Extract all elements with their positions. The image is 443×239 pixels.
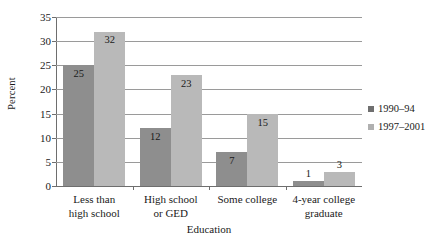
y-axis-tick-mark — [52, 17, 56, 18]
y-axis-tick-mark — [52, 65, 56, 66]
bar-value-label: 1 — [293, 168, 324, 179]
x-axis-category-label-line: graduate — [276, 207, 373, 221]
legend-item[interactable]: 1990–94 — [368, 102, 425, 115]
y-axis-tick-labels: 05101520253035 — [0, 17, 51, 186]
y-axis-tick-label: 35 — [40, 12, 51, 23]
x-axis-title: Education — [0, 223, 418, 235]
legend-swatch-icon — [368, 106, 374, 112]
bar-value-label: 23 — [171, 78, 202, 89]
chart-legend: 1990–94 1997–2001 — [368, 102, 425, 138]
bar-value-label: 32 — [94, 34, 125, 45]
x-axis-category-label: 4-year collegegraduate — [276, 193, 373, 220]
y-axis-tick-mark — [52, 41, 56, 42]
y-axis-tick-label: 30 — [40, 36, 51, 47]
y-axis-tick-label: 5 — [46, 156, 52, 167]
legend-item-label: 1997–2001 — [378, 121, 425, 132]
bar[interactable] — [63, 65, 94, 186]
x-axis-category-label-line: or GED — [123, 207, 220, 221]
y-axis-tick-mark — [52, 89, 56, 90]
bar-chart: Percent 05101520253035 2532122371513 Edu… — [0, 0, 443, 239]
x-axis-tick-mark — [133, 186, 134, 190]
y-axis-tick-label: 20 — [40, 84, 51, 95]
bar-value-label: 3 — [324, 159, 355, 170]
y-axis-tick-mark — [52, 186, 56, 187]
x-axis-tick-mark — [209, 186, 210, 190]
legend-item[interactable]: 1997–2001 — [368, 120, 425, 133]
y-axis-tick-label: 10 — [40, 132, 51, 143]
bar-value-label: 7 — [216, 155, 247, 166]
bar[interactable] — [293, 181, 324, 186]
y-axis-tick-mark — [52, 138, 56, 139]
legend-swatch-icon — [368, 124, 374, 130]
bar[interactable] — [94, 32, 125, 187]
plot-area: 2532122371513 — [56, 17, 362, 186]
bar[interactable] — [171, 75, 202, 186]
bar-value-label: 25 — [63, 68, 94, 79]
bar[interactable] — [324, 172, 355, 186]
gridline — [56, 17, 362, 18]
x-axis-category-label-line: 4-year college — [276, 193, 373, 207]
y-axis-tick-mark — [52, 114, 56, 115]
y-axis-tick-label: 15 — [40, 108, 51, 119]
x-axis-tick-mark — [286, 186, 287, 190]
y-axis-tick-mark — [52, 162, 56, 163]
y-axis-tick-label: 0 — [46, 181, 52, 192]
y-axis-tick-label: 25 — [40, 60, 51, 71]
bar-value-label: 15 — [247, 117, 278, 128]
bar-value-label: 12 — [140, 131, 171, 142]
legend-item-label: 1990–94 — [378, 103, 415, 114]
